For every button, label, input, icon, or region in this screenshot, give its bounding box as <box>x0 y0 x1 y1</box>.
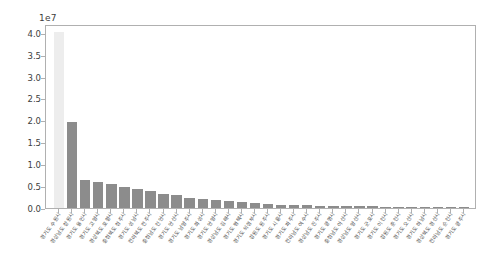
bar <box>315 206 325 208</box>
bar <box>393 207 403 208</box>
y-axis-tick-mark <box>41 78 45 79</box>
bar <box>184 198 194 209</box>
y-axis-tick-mark <box>41 56 45 57</box>
y-axis-tick-label: 3.0 <box>1 73 41 83</box>
bar <box>224 201 234 208</box>
bar <box>354 206 364 208</box>
y-axis-tick-labels: 0.00.51.01.52.02.53.03.54.0 <box>0 25 41 209</box>
bar-chart-figure: 1e7 0.00.51.01.52.02.53.03.54.0 경기도 수원시경… <box>0 0 498 267</box>
bar <box>459 207 469 208</box>
bar <box>328 206 338 208</box>
bar <box>420 207 430 208</box>
bar <box>380 207 390 208</box>
bar <box>367 206 377 208</box>
y-axis-tick-label: 3.5 <box>1 51 41 61</box>
y-axis-tick-label: 1.5 <box>1 138 41 148</box>
bar <box>302 205 312 208</box>
bar <box>145 191 155 208</box>
bar <box>106 184 116 208</box>
bar <box>158 194 168 208</box>
bar <box>406 207 416 208</box>
y-axis-tick-mark <box>41 143 45 144</box>
bar <box>433 207 443 208</box>
bar <box>289 205 299 208</box>
y-axis-tick-label: 0.0 <box>1 204 41 214</box>
bar <box>276 205 286 209</box>
bar <box>211 200 221 208</box>
y-axis-tick-mark <box>41 34 45 35</box>
x-axis-tick-labels: 경기도 수원시경상남도 창원시경기도 용인시경기도 고양시경상북도 포항시충청북… <box>45 212 476 267</box>
y-axis-tick-mark <box>41 187 45 188</box>
bar-series <box>46 26 475 208</box>
bar <box>446 207 456 208</box>
bar <box>198 199 208 208</box>
y-axis-tick-label: 2.5 <box>1 94 41 104</box>
bar <box>263 204 273 208</box>
bar <box>54 32 64 208</box>
y-axis-offset-label: 1e7 <box>39 13 57 23</box>
y-axis-tick-mark <box>41 165 45 166</box>
bar <box>93 182 103 208</box>
bar <box>132 189 142 208</box>
plot-area <box>45 25 476 209</box>
bar <box>171 195 181 208</box>
bar <box>237 202 247 208</box>
y-axis-tick-label: 2.0 <box>1 116 41 126</box>
bar <box>80 180 90 208</box>
y-axis-tick-mark <box>41 99 45 100</box>
y-axis-tick-mark <box>41 209 45 210</box>
bar <box>119 187 129 208</box>
bar <box>67 122 77 208</box>
y-axis-tick-mark <box>41 121 45 122</box>
bar <box>341 206 351 208</box>
y-axis-tick-label: 1.0 <box>1 160 41 170</box>
bar <box>250 203 260 208</box>
y-axis-tick-label: 4.0 <box>1 29 41 39</box>
y-axis-tick-label: 0.5 <box>1 182 41 192</box>
